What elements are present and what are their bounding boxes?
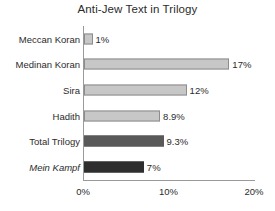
bar-row: Hadith 8.9%	[0, 103, 275, 129]
x-axis-tick-labels: 0% 10% 20%	[0, 186, 275, 200]
x-tick-2: 20%	[244, 186, 263, 198]
bar-total-trilogy	[84, 136, 164, 147]
bar-rows: Meccan Koran 1% Medinan Koran 17% Sira 1…	[0, 26, 275, 180]
bar-row: Medinan Koran 17%	[0, 52, 275, 78]
category-label-medinan-koran: Medinan Koran	[16, 59, 80, 70]
bar-meccan-koran	[84, 33, 93, 44]
bar-hadith	[84, 110, 160, 121]
bar-row: Total Trilogy 9.3%	[0, 129, 275, 155]
bar-sira	[84, 85, 187, 96]
bar-row: Meccan Koran 1%	[0, 26, 275, 52]
x-tick-0: 0%	[76, 186, 90, 198]
bar-row: Sira 12%	[0, 77, 275, 103]
bar-row: Mein Kampf 7%	[0, 154, 275, 180]
bar-medinan-koran	[84, 59, 229, 70]
value-label-mein-kampf: 7%	[147, 162, 161, 173]
value-label-meccan-koran: 1%	[96, 33, 110, 44]
bar-chart: Anti-Jew Text in Trilogy Meccan Koran 1%…	[0, 0, 275, 211]
category-label-sira: Sira	[63, 85, 80, 96]
category-label-hadith: Hadith	[53, 110, 80, 121]
category-label-meccan-koran: Meccan Koran	[19, 33, 80, 44]
value-label-medinan-koran: 17%	[232, 59, 251, 70]
category-label-total-trilogy: Total Trilogy	[29, 136, 80, 147]
value-label-sira: 12%	[190, 85, 209, 96]
category-label-mein-kampf: Mein Kampf	[29, 162, 80, 173]
x-axis-line	[83, 180, 255, 181]
bar-mein-kampf	[84, 162, 144, 173]
plot-area: Meccan Koran 1% Medinan Koran 17% Sira 1…	[0, 0, 275, 211]
value-label-total-trilogy: 9.3%	[167, 136, 189, 147]
value-label-hadith: 8.9%	[163, 110, 185, 121]
x-tick-1: 10%	[159, 186, 178, 198]
